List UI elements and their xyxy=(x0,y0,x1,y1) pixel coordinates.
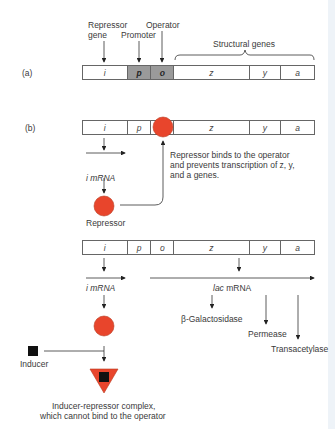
repressor-bound-icon xyxy=(153,117,173,137)
repressor-icon xyxy=(94,196,114,216)
diagram-arrows xyxy=(0,0,335,429)
repressor-icon-c xyxy=(94,316,114,336)
inducer-icon xyxy=(28,346,38,356)
